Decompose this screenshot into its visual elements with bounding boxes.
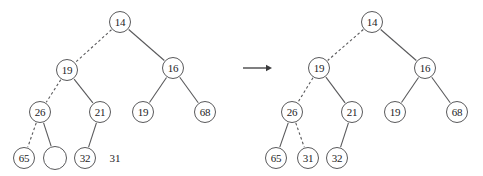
bst-insertion-figure: 14191626211968653214191626211968653132 3… — [0, 0, 483, 176]
transition-arrow-layer — [0, 0, 483, 176]
transition-arrow — [243, 65, 272, 71]
pending-key-31: 31 — [110, 153, 121, 164]
